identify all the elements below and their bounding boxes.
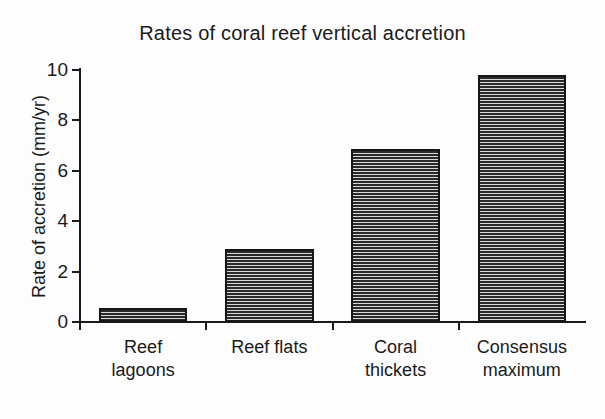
y-axis-tick <box>72 220 80 222</box>
x-axis-origin-tick <box>79 322 81 330</box>
x-axis-tick <box>458 322 460 330</box>
x-axis-category-label: Consensusmaximum <box>459 336 585 382</box>
bar <box>478 75 566 322</box>
chart-figure: Rates of coral reef vertical accretion R… <box>0 0 605 419</box>
x-axis-tick <box>332 322 334 330</box>
x-axis-category-label-line: Consensus <box>459 336 585 359</box>
y-axis-tick-label: 0 <box>8 311 68 333</box>
x-axis-category-label: Reeflagoons <box>80 336 206 382</box>
bar <box>351 149 439 322</box>
bar <box>225 249 313 322</box>
plot-area <box>80 70 585 322</box>
x-axis-tick <box>205 322 207 330</box>
y-axis-tick <box>72 119 80 121</box>
y-axis-tick-label: 8 <box>8 109 68 131</box>
chart-title: Rates of coral reef vertical accretion <box>0 22 605 45</box>
x-axis-category-label: Reef flats <box>206 336 332 359</box>
x-axis-category-label-line: lagoons <box>80 359 206 382</box>
y-axis-tick <box>72 170 80 172</box>
y-axis-title: Rate of accretion (mm/yr) <box>29 62 50 332</box>
x-axis-category-label: Coralthickets <box>333 336 459 382</box>
y-axis-tick <box>72 271 80 273</box>
y-axis-tick-label: 2 <box>8 261 68 283</box>
y-axis-tick-label: 10 <box>8 59 68 81</box>
y-axis-tick <box>72 69 80 71</box>
bar <box>99 308 187 322</box>
x-axis-category-label-line: maximum <box>459 359 585 382</box>
y-axis-tick-label: 4 <box>8 210 68 232</box>
y-axis-tick-label: 6 <box>8 160 68 182</box>
x-axis-category-label-line: Coral <box>333 336 459 359</box>
x-axis-category-label-line: thickets <box>333 359 459 382</box>
x-axis-category-label-line: Reef flats <box>206 336 332 359</box>
x-axis-category-label-line: Reef <box>80 336 206 359</box>
